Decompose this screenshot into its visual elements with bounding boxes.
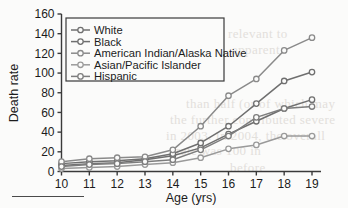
data-point	[114, 155, 119, 160]
x-tick-label: 16	[222, 177, 236, 191]
series-line	[62, 100, 313, 166]
y-axis-label: Death rate	[7, 64, 21, 122]
x-tick-label: 11	[83, 177, 96, 191]
data-point	[59, 164, 64, 169]
data-point	[226, 124, 231, 129]
legend-label: American Indian/Alaska Native	[94, 47, 246, 59]
data-point	[281, 106, 286, 111]
chart-legend: WhiteBlackAmerican Indian/Alaska NativeA…	[66, 18, 246, 82]
data-point	[87, 156, 92, 161]
data-point	[198, 140, 203, 145]
y-tick-label: 60	[41, 106, 55, 120]
data-point	[254, 101, 259, 106]
data-point	[309, 133, 314, 138]
data-point	[198, 155, 203, 160]
x-tick-label: 13	[138, 177, 152, 191]
y-tick-label: 0	[48, 165, 55, 179]
data-point	[281, 48, 286, 53]
x-tick-label: 19	[305, 177, 319, 191]
y-tick-label: 140	[34, 27, 54, 41]
data-point	[309, 35, 314, 40]
chart-figure: 020406080100120140160 101112131415161718…	[0, 0, 348, 208]
y-tick-label: 100	[34, 66, 54, 80]
data-point	[226, 146, 231, 151]
data-point	[281, 133, 286, 138]
data-point	[114, 161, 119, 166]
data-point	[142, 159, 147, 164]
x-tick-label: 10	[55, 177, 69, 191]
series-white	[59, 97, 315, 168]
footnote-rule	[12, 196, 84, 197]
data-point	[254, 76, 259, 81]
x-tick-label: 12	[110, 177, 124, 191]
series-line	[62, 107, 313, 167]
data-point	[170, 157, 175, 162]
series-line	[62, 72, 313, 164]
x-tick-label: 15	[194, 177, 208, 191]
legend-marker	[78, 27, 83, 32]
x-tick-label: 18	[277, 177, 291, 191]
data-point	[309, 69, 314, 74]
legend-label: Hispanic	[94, 70, 137, 82]
death-rate-line-chart: 020406080100120140160 101112131415161718…	[0, 0, 348, 208]
data-point	[226, 133, 231, 138]
data-point	[254, 115, 259, 120]
x-axis-label: Age (yrs)	[166, 191, 217, 205]
y-tick-label: 120	[34, 47, 54, 61]
x-axis-tick-labels: 10111213141516171819	[55, 177, 319, 191]
data-point	[198, 124, 203, 129]
data-point	[281, 78, 286, 83]
y-tick-label: 20	[41, 145, 55, 159]
y-tick-label: 160	[34, 7, 54, 21]
y-axis-tick-labels: 020406080100120140160	[34, 7, 54, 179]
legend-marker	[78, 62, 83, 67]
data-point	[170, 147, 175, 152]
x-tick-label: 14	[166, 177, 180, 191]
legend-item-american-indian-alaska-native[interactable]: American Indian/Alaska Native	[71, 47, 246, 59]
legend-label: White	[94, 24, 123, 36]
legend-label: Asian/Pacific Islander	[94, 59, 201, 71]
y-tick-label: 80	[41, 86, 55, 100]
x-tick-label: 17	[250, 177, 264, 191]
legend-marker	[78, 51, 83, 56]
data-point	[309, 104, 314, 109]
y-tick-label: 40	[41, 125, 55, 139]
legend-label: Black	[94, 36, 122, 48]
data-point	[309, 97, 314, 102]
data-point	[198, 147, 203, 152]
data-point	[254, 142, 259, 147]
legend-marker	[78, 39, 83, 44]
legend-marker	[78, 74, 83, 79]
data-point	[87, 162, 92, 167]
data-point	[226, 93, 231, 98]
